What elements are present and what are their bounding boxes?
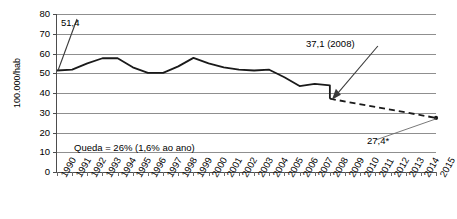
y-tick-label: 40 [39,88,50,98]
annotation-queda: Queda = 26% (1,6% ao ano) [74,142,195,153]
annotation-2008-value: 37,1 (2008) [306,38,355,49]
y-tick-label: 20 [39,128,50,138]
y-tick-label: 80 [39,9,50,19]
series-observado-line [57,58,330,99]
x-axis-tick-labels: 1990199119921993199419951996199719981999… [0,172,447,219]
y-tick-label: 10 [39,148,50,158]
y-tick-label: 70 [39,29,50,39]
y-tick-label: 30 [39,108,50,118]
y-tick-label: 60 [39,49,50,59]
series-projetado-line [330,99,436,118]
y-tick-label: 50 [39,69,50,79]
annotation-2015-value: 27,4* [367,135,389,146]
x-tick-label: 2015 [438,156,457,179]
endpoint-marker [434,116,438,120]
y-axis-title: 100.000/hab [12,28,22,138]
annotation-start-value: 51,4 [61,17,80,28]
